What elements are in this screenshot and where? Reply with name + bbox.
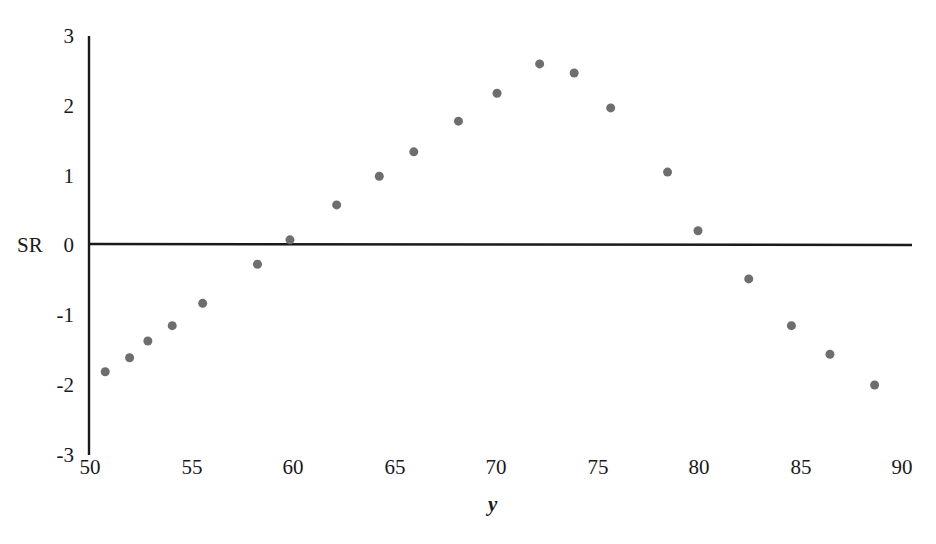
y-tick-label-neg2: -2 <box>42 375 74 396</box>
scatter-plot-figure: 3 2 1 0 -1 -2 -3 50 55 60 65 70 75 80 85… <box>0 0 936 544</box>
data-point <box>570 68 579 77</box>
axes-group <box>89 36 912 455</box>
data-point <box>332 200 341 209</box>
y-tick-label-3: 3 <box>50 26 74 47</box>
y-tick-label-neg1: -1 <box>42 305 74 326</box>
x-axis-title: y <box>488 494 497 515</box>
data-point <box>870 381 879 390</box>
data-point <box>125 353 134 362</box>
zero-reference-line <box>89 244 912 245</box>
x-tick-label-75: 75 <box>578 457 618 478</box>
x-tick-label-90: 90 <box>882 457 922 478</box>
data-point <box>409 147 418 156</box>
x-tick-label-60: 60 <box>273 457 313 478</box>
x-tick-label-85: 85 <box>781 457 821 478</box>
data-point <box>694 226 703 235</box>
data-point <box>744 274 753 283</box>
x-tick-label-55: 55 <box>172 457 212 478</box>
y-tick-label-1: 1 <box>50 166 74 187</box>
x-tick-label-80: 80 <box>679 457 719 478</box>
x-tick-label-70: 70 <box>476 457 516 478</box>
data-point <box>253 260 262 269</box>
x-tick-label-50: 50 <box>70 457 110 478</box>
data-point <box>825 350 834 359</box>
data-point <box>285 235 294 244</box>
y-tick-label-2: 2 <box>50 96 74 117</box>
data-point <box>454 117 463 126</box>
data-points-group <box>101 59 879 389</box>
data-point <box>606 103 615 112</box>
data-point <box>143 337 152 346</box>
data-point <box>535 59 544 68</box>
data-point <box>787 321 796 330</box>
data-point <box>168 321 177 330</box>
y-axis-title: SR <box>17 235 43 256</box>
data-point <box>198 299 207 308</box>
data-point <box>493 89 502 98</box>
data-point <box>663 168 672 177</box>
data-point <box>375 172 384 181</box>
x-tick-label-65: 65 <box>375 457 415 478</box>
data-point <box>101 367 110 376</box>
y-tick-label-0: 0 <box>50 235 74 256</box>
